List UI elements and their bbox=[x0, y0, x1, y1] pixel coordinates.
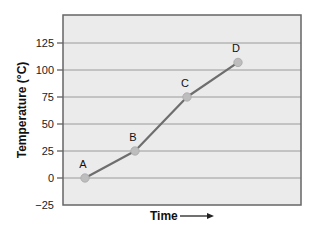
y-tick-label: −25 bbox=[35, 199, 54, 211]
point-label-d: D bbox=[232, 42, 240, 54]
y-tick-label: 75 bbox=[42, 91, 54, 103]
temperature-chart: −250255075100125 ABCD Temperature (°C) T… bbox=[0, 0, 316, 233]
point-label-c: C bbox=[181, 77, 189, 89]
y-tick-label: 25 bbox=[42, 145, 54, 157]
x-axis-title: Time bbox=[150, 209, 178, 223]
data-point-b bbox=[131, 147, 139, 155]
data-point-d bbox=[234, 58, 242, 66]
point-label-a: A bbox=[79, 158, 87, 170]
data-point-c bbox=[183, 93, 191, 101]
y-tick-label: 125 bbox=[36, 37, 54, 49]
right-arrow-icon bbox=[180, 213, 214, 219]
y-tick-label: 0 bbox=[48, 172, 54, 184]
y-axis-ticks: −250255075100125 bbox=[35, 37, 63, 211]
y-tick-label: 50 bbox=[42, 118, 54, 130]
y-axis-title: Temperature (°C) bbox=[15, 62, 29, 159]
point-label-b: B bbox=[129, 131, 136, 143]
data-point-a bbox=[81, 174, 89, 182]
y-tick-label: 100 bbox=[36, 64, 54, 76]
